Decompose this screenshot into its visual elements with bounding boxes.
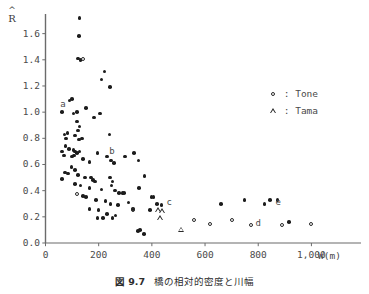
y-axis-label: ^ R: [4, 8, 20, 24]
data-point-filled: [84, 195, 88, 199]
data-point-filled: [88, 186, 92, 190]
data-point-filled: [155, 202, 159, 206]
data-point-filled: [93, 180, 97, 184]
data-point-filled: [67, 147, 71, 151]
y-tick-label: 1.6: [6, 28, 40, 39]
x-tick-label: 600: [180, 249, 230, 260]
data-point-filled: [75, 110, 79, 114]
y-tick-label: 1.4: [6, 54, 40, 65]
point-annotation-d: d: [256, 218, 261, 228]
open-circle-icon: [268, 88, 278, 99]
data-point-filled: [243, 198, 247, 202]
y-tick-label: 0.6: [6, 158, 40, 169]
y-tick-label: 0.2: [6, 211, 40, 222]
data-point-filled: [109, 202, 113, 206]
data-point-filled: [148, 208, 152, 212]
x-tick-label: 800: [233, 249, 283, 260]
data-point-filled: [75, 120, 79, 124]
y-tick-label: 0.0: [6, 237, 40, 248]
data-point-filled: [92, 116, 96, 120]
figure-caption: 図 9.7橋の相対的密度と川幅: [0, 274, 369, 288]
y-tick-label: 0.8: [6, 132, 40, 143]
point-annotation-b: b: [109, 146, 114, 156]
data-point-filled: [72, 154, 76, 158]
data-point-filled: [96, 151, 100, 155]
figure-container: ^ R 0.00.20.40.60.81.01.21.41.6 02004006…: [0, 0, 369, 294]
data-point-filled: [268, 198, 272, 202]
open-circle-glyph: [271, 92, 275, 96]
data-point-filled: [112, 161, 116, 165]
legend-label: Tama: [295, 105, 318, 116]
y-tick-label: 1.0: [6, 106, 40, 117]
y-tick-label: 1.2: [6, 80, 40, 91]
y-tick-label: 0.4: [6, 185, 40, 196]
data-point-filled: [76, 129, 80, 133]
data-point-filled: [64, 137, 68, 141]
data-point-filled: [84, 106, 88, 110]
data-point-tama: [157, 215, 163, 220]
data-point-filled: [77, 34, 81, 38]
data-point-filled: [132, 151, 136, 155]
data-point-filled: [81, 157, 85, 161]
data-point-filled: [60, 110, 64, 114]
data-point-filled: [287, 220, 291, 224]
x-axis-label: W(m): [318, 250, 341, 261]
data-point-tone: [131, 208, 135, 212]
open-triangle-icon: [268, 105, 278, 116]
data-point-filled: [73, 182, 77, 186]
data-point-filled: [138, 228, 142, 232]
data-point-filled: [78, 16, 82, 20]
data-point-filled: [80, 137, 84, 141]
data-point-filled: [60, 177, 64, 181]
data-point-filled: [98, 112, 102, 116]
data-point-filled: [137, 186, 141, 190]
point-annotation-a: a: [60, 99, 65, 109]
data-point-tama: [178, 227, 184, 232]
data-point-filled: [94, 198, 98, 202]
data-point-filled: [88, 160, 92, 164]
data-point-tone: [81, 57, 85, 61]
data-point-filled: [105, 212, 109, 216]
x-tick-label: 0: [21, 249, 71, 260]
legend-separator: :: [278, 105, 295, 116]
data-point-filled: [76, 173, 80, 177]
legend-entry-tama: : Tama: [268, 105, 318, 116]
legend-label: Tone: [295, 88, 318, 99]
data-point-filled: [101, 216, 105, 220]
point-annotation-e: e: [276, 197, 281, 207]
data-point-filled: [116, 203, 120, 207]
data-point-filled: [66, 131, 70, 135]
figure-caption-text: 橋の相対的密度と川幅: [154, 276, 254, 287]
data-point-filled: [219, 202, 223, 206]
data-point-filled: [108, 85, 112, 89]
legend-separator: :: [278, 88, 295, 99]
data-point-filled: [73, 168, 77, 172]
data-point-filled: [142, 232, 146, 236]
data-point-filled: [62, 154, 66, 158]
open-triangle-glyph: [270, 108, 276, 113]
x-tick-label: 200: [74, 249, 124, 260]
data-point-tone: [230, 218, 234, 222]
data-point-tama: [159, 208, 165, 213]
data-point-filled: [83, 176, 87, 180]
data-point-filled: [263, 202, 267, 206]
data-point-filled: [70, 97, 74, 101]
y-axis-label-text: R: [8, 13, 16, 24]
figure-number: 図 9.7: [115, 276, 145, 287]
point-annotation-c: c: [166, 197, 171, 207]
legend-entry-tone: : Tone: [268, 88, 318, 99]
x-tick-label: 400: [127, 249, 177, 260]
